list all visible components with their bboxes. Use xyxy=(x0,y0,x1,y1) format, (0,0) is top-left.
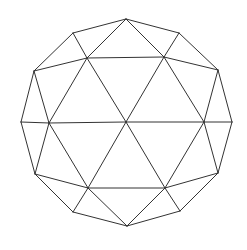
edge xyxy=(218,70,232,122)
edge xyxy=(49,58,87,123)
edge xyxy=(88,188,127,226)
edge xyxy=(34,71,49,123)
edge xyxy=(126,57,164,122)
edge xyxy=(204,122,218,173)
edge xyxy=(164,33,179,57)
edge xyxy=(88,122,126,188)
edge xyxy=(204,70,218,122)
edge xyxy=(34,58,87,71)
edge xyxy=(35,174,88,188)
geodesic-sphere-diagram xyxy=(0,0,247,250)
edge xyxy=(179,33,218,70)
edge xyxy=(73,33,87,58)
edge xyxy=(73,19,126,33)
edge xyxy=(21,71,34,122)
edge xyxy=(49,123,88,188)
edge xyxy=(35,123,49,174)
edge xyxy=(49,122,126,123)
edge xyxy=(164,57,218,70)
edge xyxy=(164,57,204,122)
edge xyxy=(73,188,88,212)
edge xyxy=(165,188,180,211)
edge xyxy=(126,19,164,57)
edge xyxy=(21,122,35,174)
edge xyxy=(126,19,179,33)
edge xyxy=(87,57,164,58)
edge xyxy=(35,174,73,212)
wireframe-svg xyxy=(0,0,247,250)
edge xyxy=(126,122,165,188)
edge xyxy=(87,58,126,122)
edge xyxy=(34,33,73,71)
edge xyxy=(87,19,126,58)
edge xyxy=(21,122,49,123)
edge xyxy=(73,212,127,226)
edge xyxy=(218,122,232,173)
